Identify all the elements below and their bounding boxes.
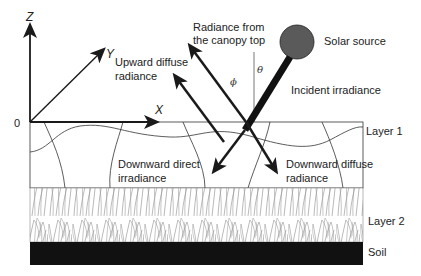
layer-1-label: Layer 1 [366, 125, 403, 138]
canopy-diagram: Z Y X 0 ϕ θ Radiance from the canopy top… [0, 0, 421, 276]
z-axis-label: Z [26, 10, 33, 24]
downward-diffuse-label-1: Downward diffuse [286, 158, 373, 171]
phi-angle-label: ϕ [230, 76, 237, 87]
layer-2-label: Layer 2 [368, 215, 405, 228]
layer-2-box [30, 188, 363, 242]
x-axis-label: X [155, 103, 163, 117]
downward-diffuse-label-2: radiance [286, 172, 328, 185]
soil-box [30, 242, 363, 265]
y-axis-label: Y [106, 47, 114, 61]
radiance-top-label-2: the canopy top [193, 34, 265, 47]
solar-source [280, 25, 314, 59]
origin-label: 0 [14, 117, 20, 130]
theta-angle-label: θ [257, 64, 263, 75]
incident-irradiance-label: Incident irradiance [291, 84, 381, 97]
soil-label: Soil [368, 246, 386, 259]
solar-source-label: Solar source [324, 35, 386, 48]
upward-diffuse-label-2: radiance [115, 70, 157, 83]
radiance-top-label-1: Radiance from [193, 21, 265, 34]
downward-direct-label-1: Downward direct [118, 158, 200, 171]
downward-direct-label-2: irradiance [118, 172, 166, 185]
upward-diffuse-label-1: Upward diffuse [115, 56, 188, 69]
